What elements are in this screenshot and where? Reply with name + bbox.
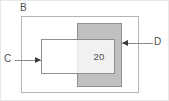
- arrowhead-left-icon: [122, 40, 128, 46]
- arrowhead-right-icon: [35, 57, 41, 63]
- overlap-value-label: 20: [90, 50, 108, 63]
- label-d: D: [154, 37, 161, 47]
- venn-rectangle-diagram: 20 B C D: [0, 0, 169, 101]
- label-b: B: [20, 3, 27, 13]
- label-c: C: [4, 54, 11, 64]
